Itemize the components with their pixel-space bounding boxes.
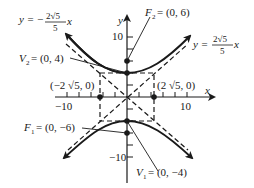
svg-text:1: 1 (143, 173, 147, 181)
left-co-vertex-label: (−2 √5, 0) (50, 79, 95, 92)
svg-text:2√5: 2√5 (46, 11, 60, 21)
svg-text:x: x (233, 38, 239, 50)
asymptote-positive-equation: y = 2√5 5 x (192, 34, 239, 56)
v2-label: V 2 = (0, 4) (19, 52, 64, 67)
svg-text:= (0, −4): = (0, −4) (148, 166, 187, 179)
x-axis-label: x (204, 84, 210, 96)
y-tick-neg-10: −10 (109, 151, 127, 163)
svg-text:5: 5 (53, 23, 58, 33)
v1-label: V 1 = (0, −4) (136, 166, 187, 181)
hyperbola-diagram: y x 10 −10 −10 10 (−2 √5, 0) (2 √5, 0) F… (0, 0, 254, 188)
svg-text:2: 2 (26, 59, 30, 67)
svg-text:1: 1 (31, 128, 35, 136)
svg-text:= (0, 4): = (0, 4) (31, 52, 64, 65)
left-co-vertex-point (97, 94, 103, 100)
y-tick-pos-10: 10 (112, 30, 124, 42)
x-tick-neg-10: −10 (55, 100, 73, 112)
asymptote-negative-equation: y = − 2√5 5 x (18, 11, 72, 33)
svg-text:= (0, 6): = (0, 6) (157, 6, 190, 19)
y-axis-label: y (117, 14, 123, 26)
svg-text:= (0, −6): = (0, −6) (36, 121, 75, 134)
svg-text:F: F (144, 6, 152, 18)
svg-text:2: 2 (152, 13, 156, 21)
right-co-vertex-label: (2 √5, 0) (157, 79, 195, 92)
f2-label: F 2 = (0, 6) (144, 6, 190, 21)
svg-text:2√5: 2√5 (213, 34, 227, 44)
x-tick-pos-10: 10 (180, 100, 192, 112)
x-axis (55, 92, 214, 97)
f2-leader (127, 17, 150, 61)
svg-text:x: x (66, 15, 72, 27)
f1-label: F 1 = (0, −6) (23, 121, 75, 136)
right-co-vertex-point (151, 94, 157, 100)
svg-text:5: 5 (220, 46, 225, 56)
svg-text:F: F (23, 121, 31, 133)
svg-text:y =: y = (192, 38, 208, 50)
v2-leader (70, 58, 127, 73)
svg-text:y = −: y = − (18, 13, 44, 25)
hyperbola-lower-branch (127, 121, 192, 158)
